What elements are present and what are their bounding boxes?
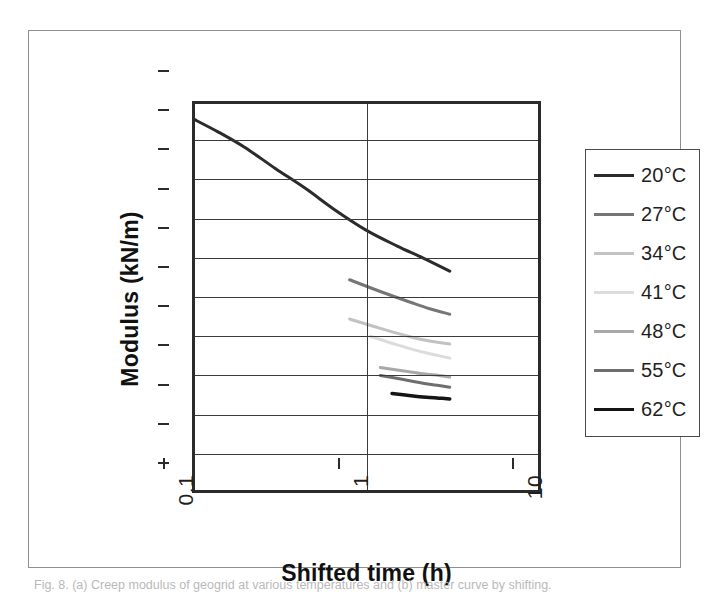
y-axis-tick-mark	[158, 109, 169, 111]
gridline-vertical	[367, 104, 368, 490]
plot-area	[192, 101, 541, 493]
legend-item: 62°C	[586, 390, 699, 429]
x-axis-tick-mark	[163, 458, 165, 469]
legend-item: 20°C	[586, 156, 699, 195]
legend-swatch-line	[594, 174, 634, 177]
y-axis-tick-mark	[158, 148, 169, 150]
legend-label: 27°C	[641, 203, 687, 226]
gridlines	[195, 104, 538, 490]
figure-frame: Modulus (kN/m) 0501001502002503003504004…	[28, 30, 681, 568]
x-axis-tick-label: 1	[349, 475, 373, 487]
legend-swatch-line	[594, 291, 634, 294]
legend-swatch-line	[594, 213, 634, 216]
legend-item: 41°C	[586, 273, 699, 312]
legend-item: 34°C	[586, 234, 699, 273]
legend-label: 48°C	[641, 320, 687, 343]
x-axis-tick-mark	[338, 458, 340, 469]
y-axis-tick-mark	[158, 70, 169, 72]
y-axis-tick-mark	[158, 305, 169, 307]
x-axis-tick-label: 10	[523, 475, 547, 499]
y-axis-tick-mark	[158, 227, 169, 229]
figure-caption: Fig. 8. (a) Creep modulus of geogrid at …	[34, 578, 694, 592]
legend-item: 27°C	[586, 195, 699, 234]
legend-swatch-line	[594, 330, 634, 333]
legend-label: 41°C	[641, 281, 687, 304]
legend-item: 48°C	[586, 312, 699, 351]
y-axis-tick-mark	[158, 344, 169, 346]
x-axis-tick-mark	[512, 458, 514, 469]
legend-label: 20°C	[641, 164, 687, 187]
legend-label: 55°C	[641, 359, 687, 382]
chart-legend: 20°C27°C34°C41°C48°C55°C62°C	[585, 149, 700, 437]
legend-label: 62°C	[641, 398, 687, 421]
y-axis-tick-mark	[158, 384, 169, 386]
y-axis-tick-mark	[158, 266, 169, 268]
y-axis-tick-mark	[158, 188, 169, 190]
y-axis-tick-mark	[158, 423, 169, 425]
x-axis-tick-label: 0.1	[174, 475, 198, 505]
y-axis-tick-labels: 050100150200250300350400450500	[29, 31, 192, 605]
legend-item: 55°C	[586, 351, 699, 390]
legend-swatch-line	[594, 369, 634, 372]
legend-label: 34°C	[641, 242, 687, 265]
legend-swatch-line	[594, 408, 634, 411]
legend-swatch-line	[594, 252, 634, 255]
